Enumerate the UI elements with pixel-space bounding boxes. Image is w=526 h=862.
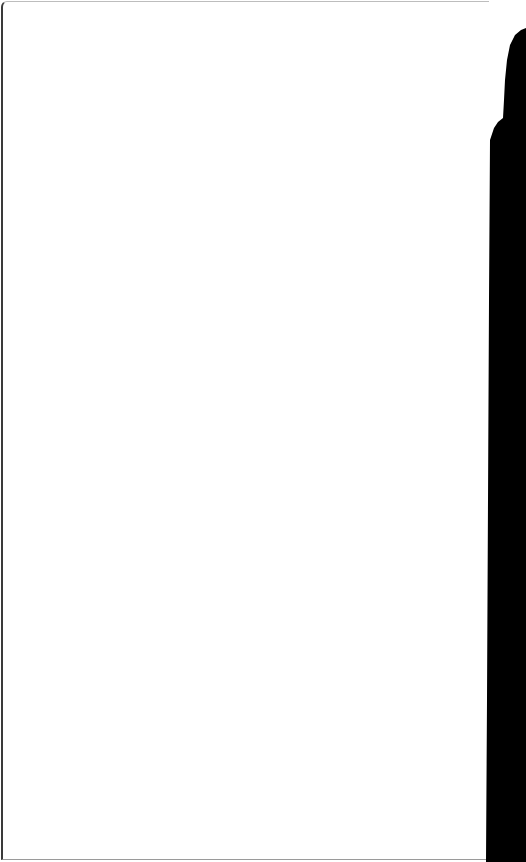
photo-frame bbox=[0, 0, 526, 862]
dark-silhouette bbox=[0, 0, 526, 862]
